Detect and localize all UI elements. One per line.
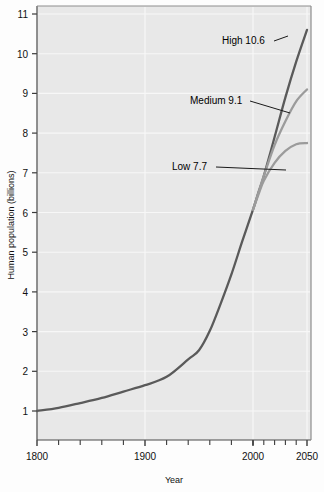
y-tick-label: 5	[22, 247, 28, 258]
plot-area-background	[37, 6, 311, 440]
y-tick-label: 7	[22, 168, 28, 179]
y-axis-title: Human population (billions)	[6, 170, 16, 279]
y-tick-label: 2	[22, 366, 28, 377]
annotation-label-high: High 10.6	[222, 35, 265, 46]
y-tick-label: 11	[18, 9, 29, 20]
y-tick-label: 10	[17, 49, 29, 60]
y-axis-ticks: 1234567891011	[17, 9, 37, 417]
chart-canvas: 1234567891011 1800190020002050 High 10.6…	[0, 0, 324, 492]
y-tick-label: 1	[22, 406, 28, 417]
x-tick-label: 1900	[134, 451, 157, 462]
x-axis-ticks: 1800190020002050	[26, 440, 319, 462]
x-tick-label: 2050	[296, 451, 319, 462]
x-tick-label: 2000	[242, 451, 265, 462]
y-tick-label: 9	[22, 88, 28, 99]
population-projection-figure: 1234567891011 1800190020002050 High 10.6…	[0, 0, 324, 492]
x-tick-label: 1800	[26, 451, 49, 462]
y-tick-label: 6	[22, 208, 28, 219]
y-tick-label: 4	[22, 287, 28, 298]
annotation-label-medium: Medium 9.1	[190, 95, 243, 106]
annotation-label-low: Low 7.7	[172, 161, 207, 172]
y-tick-label: 8	[22, 128, 28, 139]
x-axis-title: Year	[165, 475, 183, 485]
y-tick-label: 3	[22, 327, 28, 338]
